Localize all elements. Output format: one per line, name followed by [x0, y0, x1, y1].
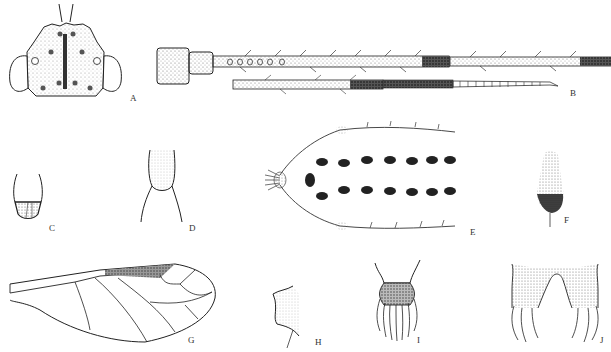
panel-f: F: [500, 130, 611, 230]
panel-label-a: A: [130, 93, 137, 103]
panel-label-j: J: [600, 335, 604, 345]
panel-d: D: [130, 150, 200, 240]
panel-c: C: [0, 170, 60, 240]
panel-label-g: G: [188, 335, 195, 345]
body-drawing: [260, 120, 480, 240]
panel-label-d: D: [189, 223, 196, 233]
panel-b-antennae: B: [150, 30, 611, 110]
appendage-f-drawing: [500, 130, 611, 230]
wing-drawing: [0, 240, 250, 352]
panel-label-c: C: [49, 223, 55, 233]
panel-a-head: A: [0, 0, 150, 110]
panel-label-i: I: [417, 335, 420, 345]
terminal-segment-i-drawing: [360, 255, 440, 352]
head-drawing: [0, 0, 150, 110]
panel-e-body: E: [260, 120, 480, 240]
terminal-lobes-j-drawing: [500, 250, 611, 352]
panel-g-wing: G: [0, 240, 250, 352]
antennae-drawing: [150, 30, 611, 110]
panel-label-b: B: [570, 88, 576, 98]
panel-h: H: [255, 280, 325, 352]
panel-i: I: [360, 255, 440, 352]
panel-label-h: H: [315, 337, 322, 347]
panel-label-e: E: [470, 227, 476, 237]
panel-label-f: F: [564, 215, 569, 225]
panel-j: J: [500, 250, 611, 352]
